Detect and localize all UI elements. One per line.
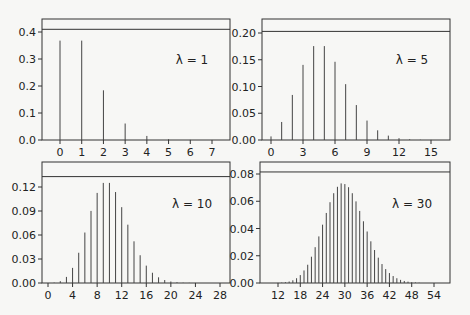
x-tick-label: 12 — [271, 289, 285, 302]
y-tick-label: 0.03 — [12, 253, 37, 266]
x-tick-label: 2 — [100, 146, 107, 159]
x-tick-label: 18 — [293, 289, 307, 302]
lambda-annotation: λ = 10 — [172, 197, 212, 211]
x-tick-label: 24 — [316, 289, 330, 302]
y-tick-label: 0.20 — [232, 27, 257, 40]
y-tick-label: 0.00 — [232, 134, 257, 147]
x-tick-label: 0 — [268, 146, 275, 159]
lambda-annotation: λ = 30 — [392, 197, 432, 211]
y-tick-label: 0.05 — [232, 107, 257, 120]
x-tick-label: 28 — [213, 289, 227, 302]
x-tick-label: 6 — [187, 146, 194, 159]
x-tick-label: 1 — [78, 146, 85, 159]
y-tick-label: 0.10 — [232, 81, 257, 94]
x-tick-label: 15 — [424, 146, 438, 159]
x-tick-label: 20 — [164, 289, 178, 302]
x-tick-label: 9 — [364, 146, 371, 159]
y-tick-label: 0.09 — [12, 205, 37, 218]
y-tick-label: 0.2 — [19, 80, 37, 93]
x-tick-label: 12 — [392, 146, 406, 159]
x-tick-label: 24 — [188, 289, 202, 302]
y-tick-label: 0.06 — [230, 195, 255, 208]
x-tick-label: 7 — [209, 146, 216, 159]
x-tick-label: 6 — [332, 146, 339, 159]
y-tick-label: 0.15 — [232, 54, 257, 67]
x-tick-label: 0 — [57, 146, 64, 159]
x-tick-label: 36 — [360, 289, 374, 302]
x-tick-label: 42 — [382, 289, 396, 302]
y-tick-label: 0.4 — [19, 26, 37, 39]
x-tick-label: 4 — [69, 289, 76, 302]
y-tick-label: 0.0 — [19, 134, 37, 147]
x-tick-label: 3 — [122, 146, 129, 159]
y-tick-label: 0.00 — [230, 277, 255, 290]
y-tick-label: 0.3 — [19, 53, 37, 66]
y-tick-label: 0.06 — [12, 229, 37, 242]
y-tick-label: 0.04 — [230, 223, 255, 236]
x-tick-label: 30 — [338, 289, 352, 302]
poisson-figure: 0.00.10.20.30.401234567λ = 10.000.050.10… — [0, 0, 470, 315]
x-tick-label: 3 — [300, 146, 307, 159]
x-tick-label: 48 — [405, 289, 419, 302]
lambda-annotation: λ = 1 — [176, 53, 208, 67]
x-tick-label: 12 — [115, 289, 129, 302]
y-tick-label: 0.12 — [12, 181, 37, 194]
y-tick-label: 0.00 — [12, 277, 37, 290]
x-tick-label: 4 — [143, 146, 150, 159]
y-tick-label: 0.02 — [230, 250, 255, 263]
x-tick-label: 54 — [427, 289, 441, 302]
x-tick-label: 16 — [139, 289, 153, 302]
x-tick-label: 0 — [45, 289, 52, 302]
lambda-annotation: λ = 5 — [396, 53, 428, 67]
y-tick-label: 0.1 — [19, 107, 37, 120]
x-tick-label: 5 — [165, 146, 172, 159]
y-tick-label: 0.08 — [230, 168, 255, 181]
x-tick-label: 8 — [94, 289, 101, 302]
